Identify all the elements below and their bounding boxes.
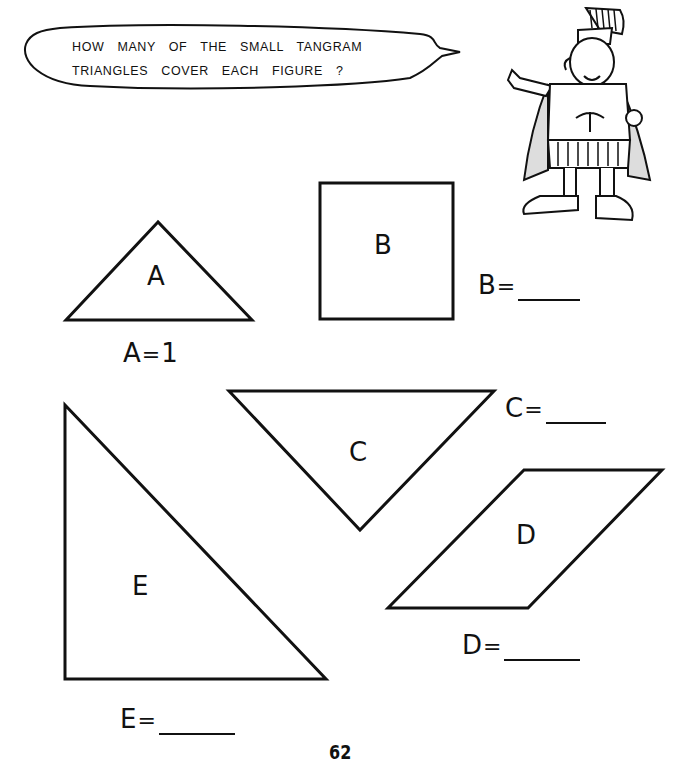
answer-d-equals: = — [483, 634, 501, 659]
answer-d: D = — [462, 630, 580, 661]
answer-e-blank[interactable] — [159, 709, 235, 735]
roman-soldier-illustration — [508, 8, 650, 220]
answer-d-letter: D — [462, 630, 482, 660]
speech-bubble-line-2: TRIANGLES COVER EACH FIGURE ? — [72, 64, 344, 78]
page-number: 62 — [329, 740, 351, 764]
speech-bubble — [25, 25, 460, 88]
answer-d-blank[interactable] — [504, 635, 580, 661]
figure-a-label: A — [147, 261, 165, 291]
answer-e-letter: E — [120, 704, 136, 734]
figure-c-label: C — [349, 437, 367, 467]
answer-a-equals: = — [142, 342, 160, 367]
answer-e: E = — [120, 704, 235, 735]
figure-b-label: B — [374, 230, 392, 260]
answer-c-blank[interactable] — [546, 398, 606, 424]
answer-a-value: 1 — [161, 338, 178, 368]
answer-b-letter: B — [478, 270, 496, 300]
answer-b-blank[interactable] — [518, 275, 580, 301]
answer-c-letter: C — [505, 393, 523, 423]
figure-e-triangle — [65, 405, 326, 679]
answer-c: C = — [505, 393, 606, 424]
answer-a: A = 1 — [123, 338, 178, 368]
answer-b: B = — [478, 270, 580, 301]
answer-e-equals: = — [137, 708, 155, 733]
answer-c-equals: = — [524, 397, 542, 422]
figure-e-label: E — [132, 571, 148, 601]
answer-a-letter: A — [123, 338, 141, 368]
speech-bubble-line-1: HOW MANY OF THE SMALL TANGRAM — [72, 40, 362, 54]
answer-b-equals: = — [497, 274, 515, 299]
figure-d-label: D — [516, 520, 536, 550]
